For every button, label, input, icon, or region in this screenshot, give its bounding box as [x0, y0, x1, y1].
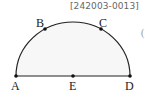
- semicircle-diagram: A B C D E: [0, 0, 145, 98]
- point-D: [128, 74, 132, 78]
- point-E: [71, 74, 75, 78]
- label-D: D: [125, 79, 134, 93]
- label-A: A: [11, 79, 20, 93]
- label-C: C: [99, 16, 107, 30]
- point-A: [14, 74, 18, 78]
- semicircle-region: [16, 22, 130, 76]
- label-B: B: [36, 16, 44, 30]
- label-E: E: [69, 79, 76, 93]
